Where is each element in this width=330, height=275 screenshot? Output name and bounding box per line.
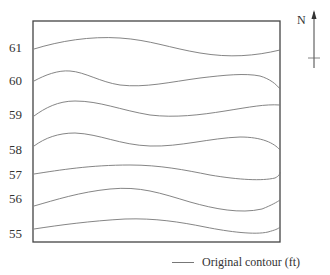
contour-line-55 [34,219,280,233]
contour-line-57 [34,165,280,180]
elevation-label-55: 55 [9,227,22,240]
map-frame [33,21,280,242]
elevation-label-61: 61 [9,41,22,54]
contour-map-figure: 61 60 59 58 57 56 55 N Original contour … [0,0,330,275]
contour-line-56 [34,188,280,211]
legend-label: Original contour (ft) [202,255,300,270]
contour-line-61 [34,38,280,56]
elevation-label-60: 60 [9,74,22,87]
elevation-label-59: 59 [9,108,22,121]
contour-line-60 [34,71,280,89]
elevation-label-56: 56 [9,192,22,205]
north-arrow-icon [308,10,320,68]
contour-map-svg [0,0,330,275]
elevation-label-58: 58 [9,143,22,156]
legend: Original contour (ft) [172,255,300,270]
north-label: N [297,13,306,28]
contour-line-58 [34,133,280,150]
legend-line-swatch [172,262,194,263]
elevation-label-57: 57 [9,168,22,181]
contour-line-59 [34,101,280,116]
